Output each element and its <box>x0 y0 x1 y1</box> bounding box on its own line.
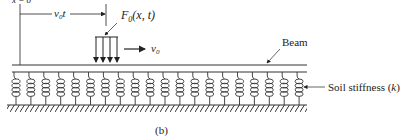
spring <box>206 72 214 105</box>
spring <box>191 72 199 105</box>
spring <box>101 72 109 105</box>
spring <box>116 72 124 105</box>
spring <box>221 72 229 105</box>
spring <box>280 72 288 105</box>
spring <box>57 72 65 105</box>
spring <box>176 72 184 105</box>
spring <box>295 72 303 105</box>
beam-leader <box>267 49 280 63</box>
spring <box>236 72 244 105</box>
soil-springs <box>12 72 303 105</box>
spring <box>42 72 50 105</box>
force-leader <box>105 23 117 35</box>
spring <box>250 72 258 105</box>
beam-on-elastic-foundation-diagram: x = 0 v0t F0(x, t) v0 Beam Soil stiffnes… <box>0 0 400 138</box>
spring <box>265 72 273 105</box>
spring <box>87 72 95 105</box>
distributed-load <box>95 37 118 62</box>
soil-stiffness-label: Soil stiffness (k) <box>328 81 400 94</box>
distance-label: v0t <box>54 7 66 21</box>
spring <box>27 72 35 105</box>
beam-label: Beam <box>282 36 308 48</box>
spring <box>146 72 154 105</box>
spring <box>72 72 80 105</box>
origin-label: x = 0 <box>11 0 32 5</box>
spring <box>12 72 20 105</box>
velocity-label: v0 <box>151 42 160 56</box>
ground-hatch <box>7 105 307 112</box>
force-label: F0(x, t) <box>120 8 155 24</box>
spring <box>161 72 169 105</box>
figure-caption: (b) <box>155 124 168 137</box>
spring <box>131 72 139 105</box>
